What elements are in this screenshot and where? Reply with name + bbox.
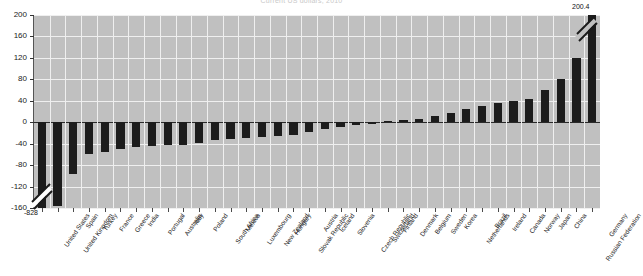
gridline (81, 15, 82, 208)
y-tick-label: -160 (0, 204, 27, 212)
bar (85, 122, 93, 154)
gridline (207, 15, 208, 208)
gridline (254, 15, 255, 208)
gridline (380, 15, 381, 208)
gridline (50, 15, 51, 208)
bar (164, 122, 172, 145)
y-tick-label: 0 (0, 118, 27, 126)
y-tick-mark (30, 15, 34, 16)
bar (195, 122, 203, 142)
y-tick-mark (30, 101, 34, 102)
bar (132, 122, 140, 147)
gridline (317, 15, 318, 208)
gridline (270, 15, 271, 208)
bar (116, 122, 124, 149)
gridline (443, 15, 444, 208)
gridline (34, 208, 600, 209)
bar (462, 109, 470, 122)
y-tick-mark (30, 122, 34, 123)
gridline (223, 15, 224, 208)
bar (242, 122, 250, 138)
gridline (348, 15, 349, 208)
bar (447, 113, 455, 123)
bar (148, 122, 156, 146)
gridline (176, 15, 177, 208)
bar (478, 106, 486, 122)
bar (384, 121, 392, 122)
gridline (286, 15, 287, 208)
bar (69, 122, 77, 173)
max-value-label: 200.4 (572, 3, 590, 10)
bar (588, 15, 596, 122)
bar (368, 122, 376, 124)
bar (53, 122, 61, 206)
bar (305, 122, 313, 132)
plot-area (33, 15, 600, 208)
bar (352, 122, 360, 125)
bar (525, 99, 533, 123)
y-tick-mark (30, 165, 34, 166)
gridline (191, 15, 192, 208)
y-tick-label: 40 (0, 97, 27, 105)
x-axis-label: Slovenia (355, 212, 375, 236)
x-axis-category-labels: United StatesUnited KingdomSpainTurkeyFr… (33, 212, 599, 276)
gridline (459, 15, 460, 208)
gridline (333, 15, 334, 208)
y-tick-label: -40 (0, 140, 27, 148)
chart-title: Current US dollars, 2010 (0, 0, 603, 5)
gridline (396, 15, 397, 208)
bar (211, 122, 219, 140)
bar (321, 122, 329, 128)
bar (431, 116, 439, 122)
bar (541, 90, 549, 122)
y-tick-mark (30, 58, 34, 59)
y-tick-label: 160 (0, 32, 27, 40)
bar (274, 122, 282, 135)
gridline (113, 15, 114, 208)
gridline (506, 15, 507, 208)
bar (336, 122, 344, 126)
x-axis-label: Turkey (101, 212, 118, 232)
y-tick-mark (30, 36, 34, 37)
y-tick-label: 200 (0, 11, 27, 19)
bar (101, 122, 109, 151)
x-axis-label: France (117, 212, 134, 233)
y-tick-mark (30, 79, 34, 80)
x-axis-label: China (572, 212, 587, 230)
bar (38, 122, 46, 208)
bar (179, 122, 187, 145)
y-tick-label: 120 (0, 54, 27, 62)
x-axis-label: Poland (212, 212, 229, 233)
gridline (97, 15, 98, 208)
gridline (65, 15, 66, 208)
bar (572, 58, 580, 122)
gridline (128, 15, 129, 208)
gridline (537, 15, 538, 208)
gridline (364, 15, 365, 208)
y-tick-label: -120 (0, 183, 27, 191)
gridline (160, 15, 161, 208)
gridline (553, 15, 554, 208)
bar (557, 79, 565, 122)
gridline (490, 15, 491, 208)
gridline (144, 15, 145, 208)
bar (258, 122, 266, 136)
bar (399, 120, 407, 122)
gridline (521, 15, 522, 208)
gridline (238, 15, 239, 208)
y-tick-mark (30, 187, 34, 188)
y-tick-label: 80 (0, 75, 27, 83)
gridline (569, 15, 570, 208)
gridline (584, 15, 585, 208)
gridline (411, 15, 412, 208)
gridline (427, 15, 428, 208)
bar (415, 119, 423, 122)
gridline (474, 15, 475, 208)
bar (226, 122, 234, 139)
bar (494, 103, 502, 122)
bar (509, 101, 517, 122)
x-axis-label: Ireland (510, 212, 527, 232)
y-tick-mark (30, 144, 34, 145)
gridline (301, 15, 302, 208)
